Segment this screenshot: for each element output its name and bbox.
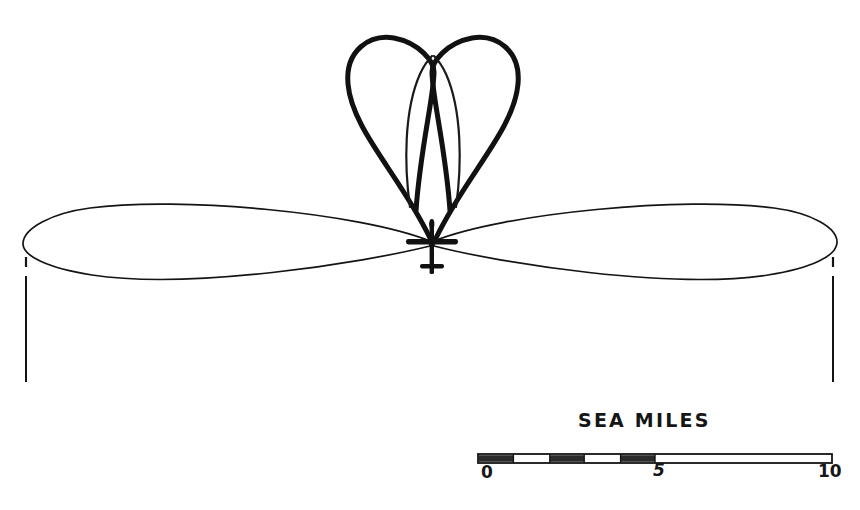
scale-bar-segment-fill (550, 455, 584, 462)
aircraft-nose (429, 219, 434, 229)
polar-diagram-figure: SEA MILES 0 5 10 (0, 0, 860, 510)
vertical-lobe-outer-right (432, 37, 518, 238)
aircraft-tailplane (420, 264, 444, 268)
vertical-outer-lobes-group (348, 37, 518, 238)
scale-tick-label-0: 0 (481, 464, 493, 481)
scale-bar-segment-fill (621, 455, 655, 462)
scale-tick-label-5: 5 (653, 462, 665, 479)
scale-tick-label-10: 10 (818, 463, 842, 480)
aircraft-icon (406, 219, 458, 274)
vertical-lobe-outer-left (348, 37, 434, 238)
radiation-pattern-svg (0, 0, 860, 510)
scale-caption: SEA MILES (578, 409, 778, 431)
horizontal-lobe-left (23, 204, 430, 279)
horizontal-lobe-right (434, 204, 837, 279)
scale-bar-segment-fill (479, 455, 513, 462)
aircraft-main-wing (406, 239, 458, 244)
range-rules-group (26, 257, 833, 382)
